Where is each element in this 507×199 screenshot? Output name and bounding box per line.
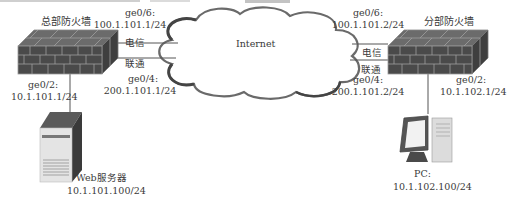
- hq-wan2-port: ge0/4:: [113, 73, 173, 84]
- branch-lan-ip: 10.1.102.1/24: [440, 86, 507, 97]
- hq-wan1-isp: 电信: [125, 37, 145, 48]
- branch-wan1-isp: 电信: [362, 47, 382, 58]
- hq-firewall-name: 总部防火墙: [41, 16, 91, 27]
- branch-lan-port: ge0/2:: [456, 74, 486, 85]
- pc-name: PC:: [414, 168, 431, 179]
- hq-wan1-port: ge0/6:: [110, 7, 170, 18]
- branch-wan1-ip: 100.1.101.2/24: [326, 19, 410, 30]
- hq-lan-port: ge0/2:: [28, 79, 58, 90]
- branch-firewall-name: 分部防火墙: [424, 16, 474, 27]
- branch-wan2-ip: 200.1.101.2/24: [326, 86, 410, 97]
- web-server-ip: 10.1.101.100/24: [67, 185, 146, 196]
- web-server-name: Web服务器: [76, 172, 127, 183]
- hq-lan-ip: 10.1.101.1/24: [11, 91, 78, 102]
- pc-ip: 10.1.102.100/24: [393, 181, 472, 192]
- internet-label: Internet: [236, 38, 275, 49]
- hq-firewall-icon: [18, 30, 118, 74]
- branch-wan1-port: ge0/6:: [338, 7, 398, 18]
- pc-icon: [400, 116, 452, 162]
- cropped-top-text: [0, 0, 290, 3]
- branch-wan2-port: ge0/4:: [338, 74, 398, 85]
- hq-wan2-isp: 联通: [125, 58, 145, 69]
- hq-wan1-ip: 100.1.101.1/24: [90, 19, 170, 30]
- branch-firewall-icon: [388, 30, 488, 74]
- hq-wan2-ip: 200.1.101.1/24: [100, 85, 180, 96]
